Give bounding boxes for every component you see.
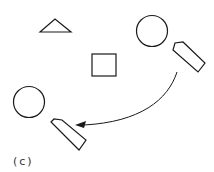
diagram-canvas: (c) [0, 0, 214, 172]
diagram-svg: (c) [0, 0, 214, 172]
panel-label: (c) [13, 155, 34, 168]
arrowhead-icon [75, 121, 86, 128]
circle-top-right [137, 16, 168, 47]
triangle-shape [40, 19, 71, 32]
square-shape [92, 54, 116, 76]
curved-arrow-path [84, 72, 177, 125]
pentagon-agent-start [173, 42, 205, 72]
circle-bottom-left [14, 87, 45, 118]
